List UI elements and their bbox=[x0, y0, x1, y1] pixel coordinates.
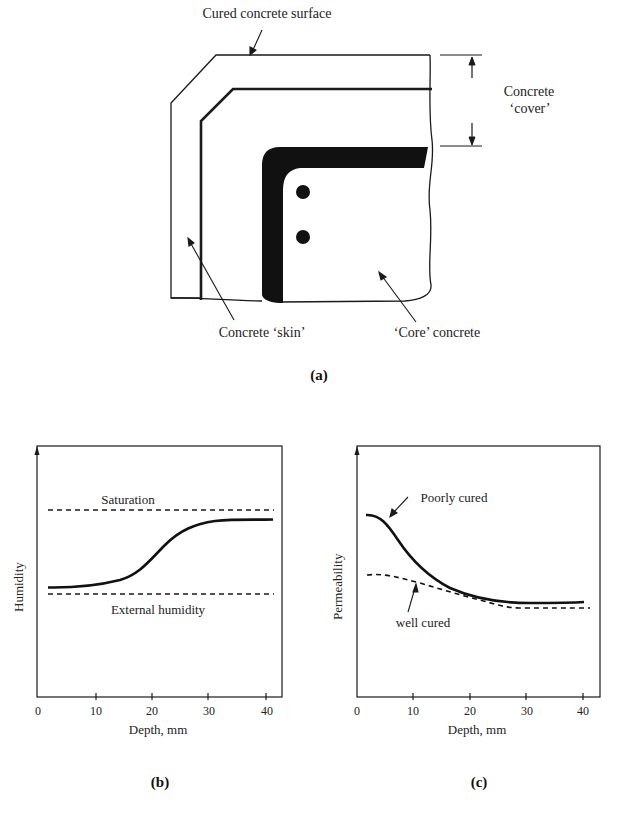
x-tick: 20 bbox=[146, 704, 158, 719]
y-axis-label-permeability: Permeability bbox=[330, 554, 346, 620]
label-core-concrete: ‘Core’ concrete bbox=[394, 325, 480, 341]
humidity-chart bbox=[35, 446, 283, 700]
figure-canvas bbox=[0, 0, 636, 815]
x-tick: 40 bbox=[261, 704, 273, 719]
humidity-curve bbox=[48, 520, 273, 588]
label-cover-line1: Concrete bbox=[504, 84, 555, 100]
reinforcement-band bbox=[262, 147, 428, 303]
x-tick: 10 bbox=[407, 704, 419, 719]
x-tick: 40 bbox=[577, 704, 589, 719]
x-tick: 0 bbox=[354, 704, 360, 719]
caption-a: (a) bbox=[310, 367, 328, 384]
label-cover-line2: ‘cover’ bbox=[510, 101, 551, 117]
label-cured-surface: Cured concrete surface bbox=[202, 6, 331, 22]
y-axis-label-humidity: Humidity bbox=[11, 562, 27, 612]
x-axis-label-depth: Depth, mm bbox=[129, 722, 188, 738]
x-tick: 20 bbox=[464, 704, 476, 719]
rebar-dot bbox=[296, 185, 310, 199]
x-tick: 10 bbox=[90, 704, 102, 719]
caption-c: (c) bbox=[471, 774, 488, 791]
x-tick: 30 bbox=[521, 704, 533, 719]
x-tick: 0 bbox=[35, 704, 41, 719]
rebar-dot bbox=[296, 230, 310, 244]
poorly-cured-curve bbox=[366, 515, 584, 603]
annotation-saturation: Saturation bbox=[101, 492, 154, 508]
annotation-poorly-cured: Poorly cured bbox=[421, 490, 488, 506]
label-concrete-skin: Concrete ‘skin’ bbox=[219, 325, 306, 341]
leader-arrows bbox=[188, 30, 416, 322]
x-tick: 30 bbox=[203, 704, 215, 719]
concrete-section-drawing bbox=[171, 55, 482, 302]
annotation-external-humidity: External humidity bbox=[111, 602, 205, 618]
permeability-chart bbox=[355, 446, 601, 700]
annotation-well-cured: well cured bbox=[396, 615, 451, 631]
x-axis-label-depth: Depth, mm bbox=[448, 722, 507, 738]
caption-b: (b) bbox=[151, 774, 169, 791]
